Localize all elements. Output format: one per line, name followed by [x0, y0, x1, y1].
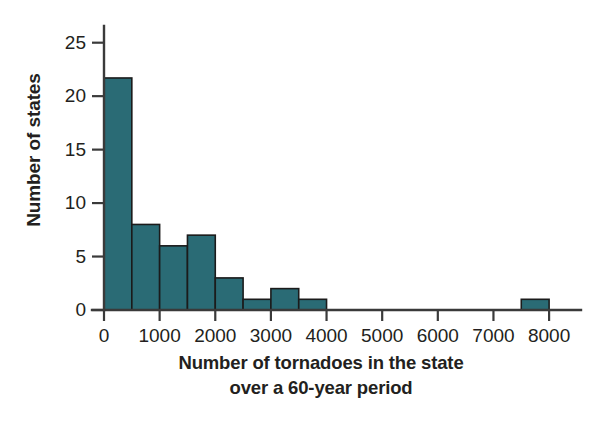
x-axis-title-line-2: over a 60-year period: [86, 376, 556, 401]
x-axis-tick-label: 7000: [472, 325, 514, 347]
x-axis-tick-label: 3000: [250, 325, 292, 347]
x-axis-tick-label: 2000: [194, 325, 236, 347]
x-axis-tick-label: 8000: [528, 325, 570, 347]
histogram-figure: Number of states 0510152025 010002000300…: [0, 0, 602, 430]
x-axis-tick-label: 6000: [417, 325, 459, 347]
x-axis-tick-label: 5000: [361, 325, 403, 347]
x-axis-tick-label: 1000: [138, 325, 180, 347]
x-axis-title-line-1: Number of tornadoes in the state: [178, 352, 463, 373]
x-axis-tick-label: 4000: [305, 325, 347, 347]
x-axis-title: Number of tornadoes in the state over a …: [86, 351, 556, 400]
x-axis-tick-label: 0: [99, 325, 110, 347]
